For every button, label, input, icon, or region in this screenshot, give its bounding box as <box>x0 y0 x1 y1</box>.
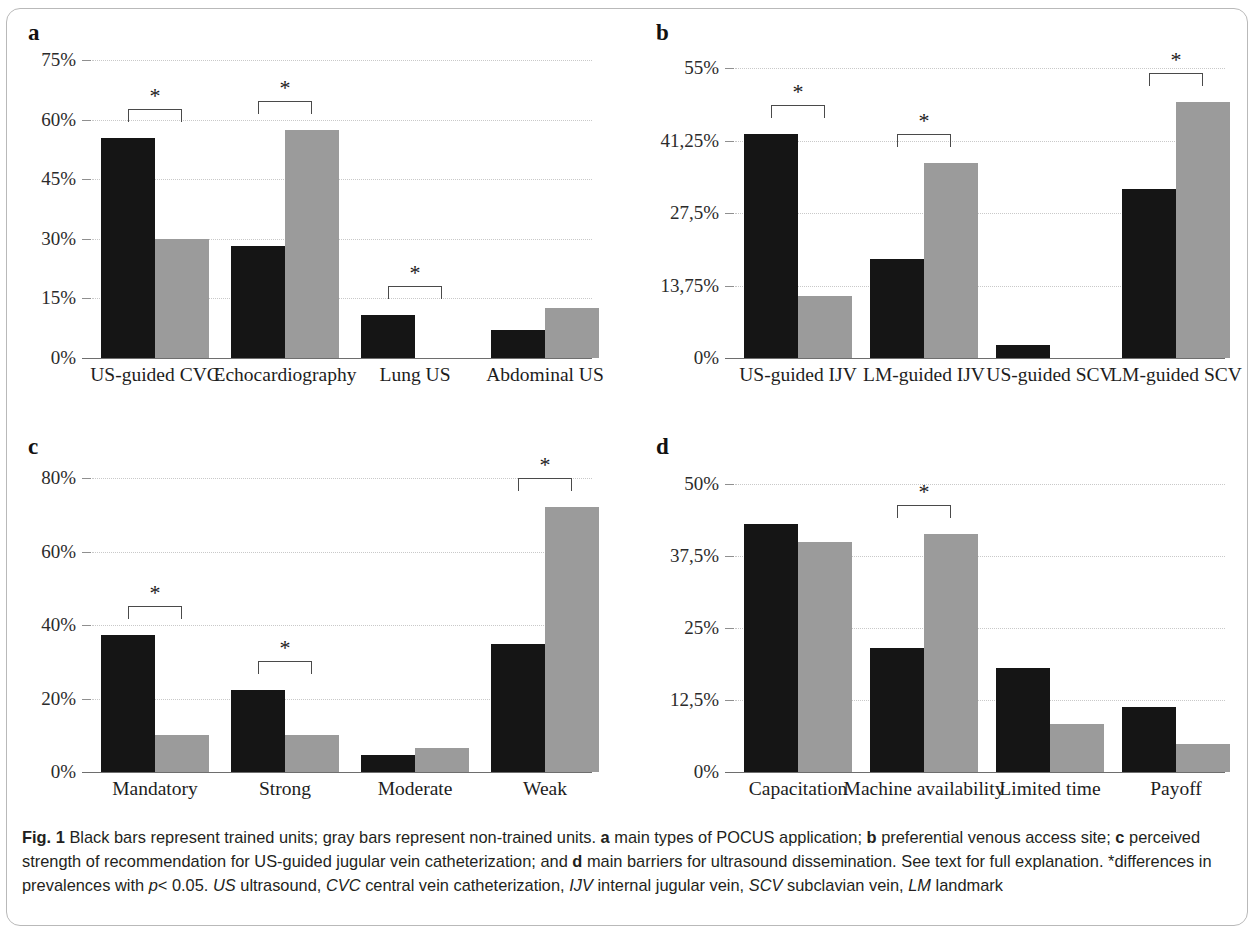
y-tick-mark <box>82 625 91 626</box>
y-tick-mark <box>82 179 91 180</box>
abbr-scv-def: subclavian vein, <box>787 876 904 894</box>
figure-label: Fig. 1 <box>22 828 65 846</box>
caption-ref-a: a <box>601 828 610 846</box>
gridline <box>735 141 1225 142</box>
y-axis-tick-label: 15% <box>10 287 76 309</box>
panel-letter-c: c <box>28 434 38 460</box>
bar-nontrained <box>1176 102 1230 358</box>
bar-trained <box>744 134 798 358</box>
bar-trained <box>101 635 155 772</box>
abbr-lm: LM <box>908 876 931 894</box>
caption-ref-d: d <box>572 852 582 870</box>
bar-trained <box>1122 707 1176 772</box>
panel-b: b0%13,75%27,5%41,25%55%US-guided IJV*LM-… <box>628 0 1256 410</box>
y-tick-mark <box>82 239 91 240</box>
bar-nontrained <box>924 534 978 772</box>
abbr-cvc: CVC <box>326 876 361 894</box>
significance-bracket <box>388 286 442 299</box>
bar-nontrained <box>798 542 852 772</box>
x-axis-line <box>82 358 592 359</box>
y-tick-mark <box>82 298 91 299</box>
y-axis-tick-label: 20% <box>10 688 76 710</box>
x-axis-line <box>725 358 1225 359</box>
significance-asterisk: * <box>410 262 421 284</box>
y-axis-tick-label: 27,5% <box>635 202 719 224</box>
bar-trained <box>744 524 798 772</box>
bar-trained <box>101 138 155 358</box>
figure-panels: a0%15%30%45%60%75%US-guided CVC*Echocard… <box>0 0 1256 820</box>
y-tick-mark <box>725 141 734 142</box>
bar-nontrained <box>1050 724 1104 772</box>
significance-bracket <box>897 134 951 147</box>
y-axis-tick-label: 50% <box>639 473 719 495</box>
y-axis-tick-label: 60% <box>10 109 76 131</box>
x-axis-category-label: Weak <box>455 778 635 800</box>
panel-d: d0%12,5%25%37,5%50%CapacitationMachine a… <box>628 420 1256 830</box>
significance-asterisk: * <box>280 77 291 99</box>
y-axis-tick-label: 0% <box>635 347 719 369</box>
y-axis-tick-label: 75% <box>10 49 76 71</box>
panel-letter-b: b <box>656 20 669 46</box>
bar-nontrained <box>415 748 469 772</box>
y-tick-mark <box>82 60 91 61</box>
y-axis-tick-label: 45% <box>10 168 76 190</box>
significance-asterisk: * <box>280 637 291 659</box>
y-tick-mark <box>82 552 91 553</box>
significance-bracket <box>258 101 312 114</box>
bar-trained <box>231 246 285 358</box>
y-axis-tick-label: 12,5% <box>639 689 719 711</box>
abbr-lm-def: landmark <box>936 876 1003 894</box>
y-axis-tick-label: 55% <box>635 57 719 79</box>
significance-bracket <box>128 109 182 122</box>
bar-trained <box>491 330 545 358</box>
bar-nontrained <box>155 735 209 772</box>
abbr-us: US <box>213 876 236 894</box>
bar-nontrained <box>924 163 978 358</box>
y-tick-mark <box>725 628 734 629</box>
x-axis-line <box>82 772 592 773</box>
significance-asterisk: * <box>1171 49 1182 71</box>
bar-trained <box>1122 189 1176 358</box>
bar-nontrained <box>545 308 599 358</box>
bar-nontrained <box>285 130 339 358</box>
gridline <box>735 484 1225 485</box>
panel-a: a0%15%30%45%60%75%US-guided CVC*Echocard… <box>0 0 628 410</box>
bar-trained <box>361 755 415 772</box>
y-tick-mark <box>82 120 91 121</box>
bar-trained <box>996 668 1050 772</box>
y-axis-tick-label: 0% <box>639 761 719 783</box>
y-axis-tick-label: 60% <box>10 541 76 563</box>
y-tick-mark <box>725 700 734 701</box>
y-tick-mark <box>725 213 734 214</box>
significance-asterisk: * <box>793 81 804 103</box>
bar-trained <box>361 315 415 358</box>
significance-asterisk: * <box>919 110 930 132</box>
y-axis-tick-label: 37,5% <box>639 545 719 567</box>
bar-trained <box>870 259 924 358</box>
figure-caption: Fig. 1 Black bars represent trained unit… <box>22 826 1227 897</box>
y-tick-mark <box>725 556 734 557</box>
significance-asterisk: * <box>150 582 161 604</box>
significance-asterisk: * <box>540 454 551 476</box>
significance-asterisk: * <box>919 481 930 503</box>
significance-bracket <box>128 606 182 619</box>
abbr-ijv-def: internal jugular vein, <box>597 876 744 894</box>
y-axis-tick-label: 41,25% <box>635 130 719 152</box>
y-axis-tick-label: 40% <box>10 614 76 636</box>
gridline <box>92 478 592 479</box>
y-axis-tick-label: 30% <box>10 228 76 250</box>
y-tick-mark <box>725 484 734 485</box>
gridline <box>735 68 1225 69</box>
gridline <box>92 625 592 626</box>
significance-bracket <box>1149 73 1203 86</box>
gridline <box>92 552 592 553</box>
bar-trained <box>491 644 545 772</box>
abbr-scv: SCV <box>749 876 783 894</box>
caption-intro: Black bars represent trained units; gray… <box>69 828 596 846</box>
significance-bracket <box>518 478 572 491</box>
y-axis-tick-label: 80% <box>10 467 76 489</box>
caption-a-text: main types of POCUS application; <box>614 828 862 846</box>
bar-nontrained <box>155 239 209 358</box>
panel-letter-d: d <box>656 434 669 460</box>
y-axis-tick-label: 25% <box>639 617 719 639</box>
